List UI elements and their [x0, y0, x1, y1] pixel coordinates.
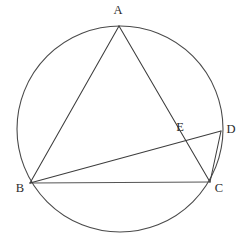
geometry-diagram-canvas: A B C D E: [0, 0, 252, 247]
label-point-a: A: [113, 3, 122, 17]
label-point-c: C: [215, 181, 223, 195]
label-point-b: B: [16, 181, 24, 195]
circumscribed-circle: [17, 26, 223, 232]
label-point-e: E: [176, 120, 184, 134]
segment-ac: [119, 26, 210, 182]
segment-bd: [30, 131, 221, 183]
geometry-figure: A B C D E: [0, 0, 252, 247]
label-point-d: D: [226, 122, 235, 136]
segment-bc: [30, 182, 210, 183]
segment-ab: [30, 26, 119, 183]
